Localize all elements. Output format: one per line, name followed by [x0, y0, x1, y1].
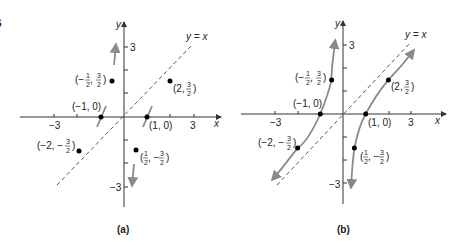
svg-text:2: 2	[97, 81, 101, 88]
svg-text:2: 2	[405, 88, 409, 95]
svg-text:): )	[193, 83, 196, 94]
svg-text:2: 2	[187, 90, 191, 97]
panel-b: −3 3 3 −3 x y y = x (− 1 2 , 3 2 )	[241, 18, 446, 235]
svg-text:): )	[72, 140, 75, 151]
svg-text:, −: , −	[368, 151, 380, 162]
svg-text:): )	[323, 72, 326, 83]
label-2-3-halves: (2, 3 2 )	[391, 79, 414, 95]
point-neg2-neg-3-halves	[77, 149, 82, 154]
line-label-y-equals-x: y = x	[404, 29, 427, 40]
x-axis-label: x	[434, 115, 441, 126]
point-neg-half-3-halves	[110, 79, 115, 84]
label-neg2-neg-3-halves: (−2, − 3 2 )	[37, 138, 75, 154]
curve-left-branch	[272, 44, 335, 180]
svg-text:3: 3	[405, 79, 409, 86]
svg-text:3: 3	[317, 70, 321, 77]
figure: 6 −3 3 3 −3 x y y = x	[0, 0, 455, 247]
svg-text:, −: , −	[148, 152, 160, 163]
svg-text:,: ,	[310, 72, 313, 83]
label-neg1-0: (−1, 0)	[293, 98, 322, 109]
svg-text:2: 2	[380, 158, 384, 165]
svg-text:3: 3	[380, 149, 384, 156]
svg-text:3: 3	[160, 150, 164, 157]
svg-text:(2,: (2,	[391, 81, 403, 92]
svg-text:2: 2	[66, 147, 70, 154]
y-axis-label: y	[334, 18, 341, 29]
figure-number-fragment: 6	[0, 18, 2, 29]
point-neg1-0	[99, 115, 104, 120]
label-neg-half-3-halves: (− 1 2 , 3 2 )	[75, 72, 106, 88]
point-1-0	[145, 115, 150, 120]
svg-text:(−2, −: (−2, −	[37, 140, 63, 151]
curve-right-arrow-down	[351, 180, 352, 188]
point-half-neg-3-halves	[134, 148, 139, 153]
svg-text:(−: (−	[295, 72, 304, 83]
svg-text:(−: (−	[75, 74, 84, 85]
label-neg2-neg-3-halves: (−2, − 3 2 )	[258, 135, 296, 151]
svg-text:2: 2	[160, 159, 164, 166]
svg-text:3: 3	[287, 135, 291, 142]
y-tick-label-neg3: −3	[110, 182, 122, 193]
y-tick-label-3: 3	[349, 40, 355, 51]
arrow-down	[132, 164, 134, 186]
label-half-neg-3-halves: ( 1 2 , − 3 2 )	[140, 150, 169, 166]
svg-text:): )	[293, 137, 296, 148]
svg-text:): )	[103, 74, 106, 85]
label-1-0: (1, 0)	[149, 120, 172, 131]
svg-text:3: 3	[66, 138, 70, 145]
caption-a: (a)	[117, 224, 129, 235]
y-tick-label-3: 3	[130, 42, 136, 53]
svg-text:): )	[166, 152, 169, 163]
line-label-y-equals-x: y = x	[185, 31, 208, 42]
x-tick-label-3: 3	[408, 117, 414, 128]
curve-left-arrow-up	[334, 40, 335, 48]
x-tick-label-neg3: −3	[49, 120, 61, 131]
label-1-0: (1, 0)	[368, 117, 391, 128]
svg-text:3: 3	[97, 72, 101, 79]
point-half-neg-3-halves	[352, 146, 357, 151]
svg-text:(−2, −: (−2, −	[258, 137, 284, 148]
label-2-3-halves: (2, 3 2 )	[173, 81, 196, 97]
svg-text:): )	[386, 151, 389, 162]
svg-text:3: 3	[187, 81, 191, 88]
point-neg-half-3-halves	[329, 77, 334, 82]
y-tick-label-neg3: −3	[329, 179, 341, 190]
label-half-neg-3-halves: ( 1 2 , − 3 2 )	[360, 149, 389, 165]
svg-text:(2,: (2,	[173, 83, 185, 94]
svg-text:2: 2	[317, 79, 321, 86]
label-neg-half-3-halves: (− 1 2 , 3 2 )	[295, 70, 326, 86]
point-2-3-halves	[168, 79, 173, 84]
point-1-0	[363, 112, 368, 117]
x-tick-label-3: 3	[190, 120, 196, 131]
label-neg1-0: (−1, 0)	[72, 101, 101, 112]
panel-a: −3 3 3 −3 x y y = x (− 1 2 , 3 2	[20, 19, 221, 235]
caption-b: (b)	[337, 224, 350, 235]
x-tick-label-neg3: −3	[270, 117, 282, 128]
x-axis-label: x	[213, 118, 220, 129]
arrow-up	[114, 44, 116, 65]
svg-text:,: ,	[90, 74, 93, 85]
svg-text:2: 2	[287, 144, 291, 151]
svg-text:): )	[411, 81, 414, 92]
point-neg1-0	[318, 112, 323, 117]
y-axis-label: y	[115, 19, 122, 30]
